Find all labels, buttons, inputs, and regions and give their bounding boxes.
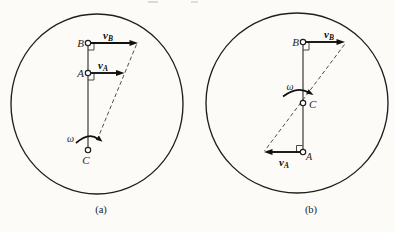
cropped-text-fragment: [191, 1, 198, 3]
arrowhead-va-b: [264, 149, 273, 155]
point-c-marker-b: [300, 100, 305, 105]
point-b-label-b: B: [292, 36, 299, 48]
caption-a: (a): [95, 204, 107, 216]
omega-arc-a: [76, 136, 98, 143]
point-c-marker-a: [85, 147, 90, 152]
point-c-label-b: C: [309, 98, 317, 110]
panel-b: B C A ω vB vA (b): [206, 13, 388, 216]
diagram-canvas: B A C ω vB vA (a) B C A ω: [0, 0, 395, 232]
va-label-b: vA: [279, 156, 289, 170]
body-outline-a: [11, 14, 183, 194]
vb-label-b: vB: [324, 28, 334, 42]
vb-label-a: vB: [103, 29, 113, 43]
point-a-label-a: A: [76, 67, 84, 79]
point-a-marker-b: [300, 149, 305, 154]
point-c-label-a: C: [82, 154, 90, 166]
figure-velocity-diagrams: B A C ω vB vA (a) B C A ω: [0, 0, 395, 232]
construction-dashed-line-b: [265, 45, 345, 152]
construction-dashed-line-a: [98, 45, 137, 140]
point-b-marker-a: [85, 40, 90, 45]
omega-arrowhead-a: [96, 136, 103, 142]
arrowhead-va-a: [116, 70, 125, 76]
caption-b: (b): [305, 204, 318, 216]
omega-label-a: ω: [67, 133, 74, 144]
point-b-label-a: B: [77, 37, 84, 49]
cropped-text-fragment: [148, 1, 158, 3]
va-label-a: vA: [98, 59, 108, 73]
point-a-marker-a: [85, 70, 90, 75]
omega-label-b: ω: [286, 81, 293, 92]
panel-a: B A C ω vB vA (a): [11, 14, 183, 216]
point-b-marker-b: [300, 39, 305, 44]
point-a-label-b: A: [305, 151, 313, 162]
arrowhead-vb-b: [337, 39, 346, 45]
